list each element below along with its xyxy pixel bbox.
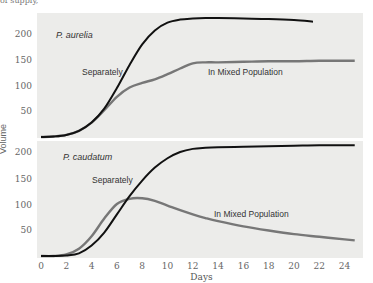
x-axis-label: Days: [0, 272, 373, 282]
y-axis-label: Volume: [0, 124, 8, 154]
xtick-4: 4: [82, 261, 102, 271]
xtick-16: 16: [233, 261, 253, 271]
ytick-bot-100: 100: [2, 200, 32, 210]
label-separately-top: Separately: [82, 67, 123, 77]
xtick-6: 6: [107, 261, 127, 271]
xtick-0: 0: [31, 261, 51, 271]
label-separately-bottom: Separately: [92, 175, 133, 185]
label-mixed-bottom: In Mixed Population: [214, 209, 289, 219]
ytick-bot-150: 150: [2, 174, 32, 184]
xtick-10: 10: [158, 261, 178, 271]
label-mixed-top: In Mixed Population: [208, 67, 283, 77]
xtick-14: 14: [208, 261, 228, 271]
xtick-22: 22: [309, 261, 329, 271]
xtick-18: 18: [259, 261, 279, 271]
ytick-top-100: 100: [2, 81, 32, 91]
plot-area: [0, 0, 373, 283]
ytick-bot-50: 50: [2, 225, 32, 235]
xtick-12: 12: [183, 261, 203, 271]
xtick-24: 24: [335, 261, 355, 271]
panel-title-aurelia: P. aurelia: [56, 30, 93, 40]
xtick-20: 20: [284, 261, 304, 271]
xtick-2: 2: [56, 261, 76, 271]
ytick-top-200: 200: [2, 29, 32, 39]
ytick-top-50: 50: [2, 106, 32, 116]
ytick-top-150: 150: [2, 55, 32, 65]
xtick-8: 8: [132, 261, 152, 271]
panel-title-caudatum: P. caudatum: [63, 152, 112, 162]
